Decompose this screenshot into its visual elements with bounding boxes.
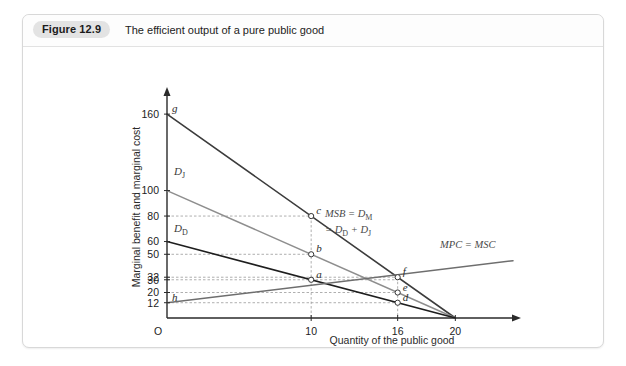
y-tick-label-30: 30 bbox=[147, 274, 159, 286]
msb2-main: = D bbox=[325, 224, 343, 235]
y-axis-title: Marginal benefit and marginal cost bbox=[130, 127, 142, 288]
y-tick-marks: 16010080605032302012 bbox=[141, 108, 170, 309]
dj-main: D bbox=[173, 165, 182, 177]
curve-label-msb-line1: MSB = DM bbox=[324, 208, 372, 222]
origin-label: O bbox=[154, 325, 162, 337]
point-label-b: b bbox=[316, 242, 322, 254]
point-label-d: d bbox=[403, 291, 409, 303]
dj-sub: J bbox=[182, 171, 185, 180]
figure-header: Figure 12.9 The efficient output of a pu… bbox=[23, 15, 603, 47]
y-axis-arrow-icon bbox=[164, 87, 171, 96]
point-label-f: f bbox=[403, 265, 408, 277]
dd-sub: D bbox=[182, 228, 188, 237]
dd-main: D bbox=[173, 222, 182, 234]
y-tick-label-60: 60 bbox=[147, 235, 159, 247]
chart-axes bbox=[164, 87, 522, 322]
plot-area: 101620 16010080605032302012 ghcbafed O Q… bbox=[23, 47, 605, 348]
curve-labels: DJ DD MSB = DM = DD + DJ MPC = MSC bbox=[173, 165, 496, 250]
point-marker-b bbox=[309, 252, 314, 257]
y-tick-label-50: 50 bbox=[147, 248, 159, 260]
curve-label-mpc-msc: MPC = MSC bbox=[439, 239, 496, 250]
data-point-labels: ghcbafed bbox=[172, 102, 409, 303]
y-tick-label-80: 80 bbox=[147, 210, 159, 222]
curve-label-msb-line2: = DD + DJ bbox=[325, 224, 371, 238]
point-label-a: a bbox=[316, 268, 322, 280]
chart-svg: 101620 16010080605032302012 ghcbafed O Q… bbox=[23, 47, 605, 348]
y-tick-label-12: 12 bbox=[147, 297, 159, 309]
y-tick-label-160: 160 bbox=[141, 108, 159, 120]
curve-label-dj: DJ bbox=[173, 165, 185, 180]
point-marker-a bbox=[309, 277, 314, 282]
point-marker-f bbox=[395, 275, 400, 280]
point-label-c: c bbox=[316, 204, 321, 216]
curve-label-dd: DD bbox=[173, 222, 188, 237]
x-axis-arrow-icon bbox=[512, 315, 521, 322]
msb2-mid: + D bbox=[348, 224, 368, 235]
x-axis-title: Quantity of the public good bbox=[330, 334, 455, 346]
figure-caption: The efficient output of a pure public go… bbox=[125, 24, 324, 36]
y-tick-label-100: 100 bbox=[141, 184, 159, 196]
point-label-h: h bbox=[172, 291, 178, 303]
point-marker-c bbox=[309, 213, 314, 218]
x-tick-label-10: 10 bbox=[305, 325, 317, 337]
figure-card: Figure 12.9 The efficient output of a pu… bbox=[22, 14, 604, 348]
msb-sub: M bbox=[365, 213, 372, 222]
msb2-sub2: J bbox=[368, 229, 371, 238]
msb-main: MSB = D bbox=[324, 208, 366, 219]
figure-number-badge: Figure 12.9 bbox=[33, 21, 110, 38]
point-marker-e bbox=[395, 290, 400, 295]
point-marker-d bbox=[395, 300, 400, 305]
point-label-g: g bbox=[172, 102, 178, 114]
